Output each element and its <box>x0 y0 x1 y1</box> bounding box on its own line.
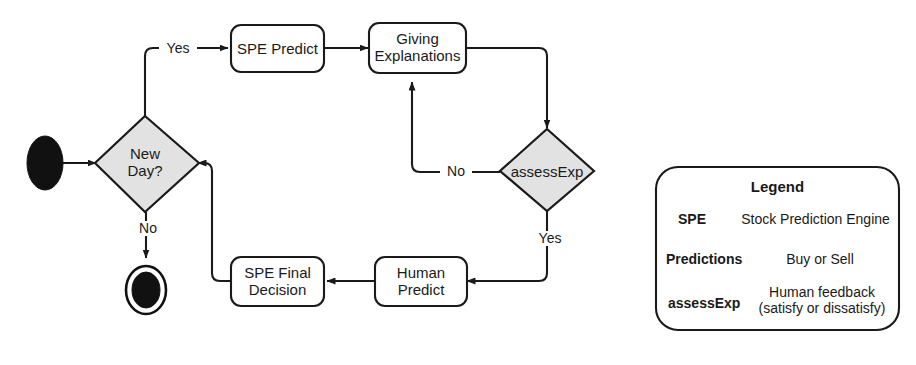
edge-label-assess-exp-no: No <box>440 164 472 179</box>
legend-definition-predictions: Buy or Sell <box>760 251 880 267</box>
decision-new-day <box>95 116 199 212</box>
legend-definition-assess-exp-line1: Human feedback <box>752 284 892 300</box>
edge-label-new-day-yes: Yes <box>159 41 197 56</box>
decision-assess-exp <box>500 129 594 211</box>
legend-definition-assess-exp-line2: (satisfy or dissatisfy) <box>752 300 892 316</box>
edge-label-assess-exp-yes: Yes <box>531 231 569 246</box>
edge-assess-exp-no-to-giving-explanations <box>412 82 500 172</box>
action-spe-final-decision <box>231 257 324 306</box>
end-node <box>126 266 166 314</box>
action-giving-explanations <box>369 23 466 73</box>
legend-title: Legend <box>656 178 899 195</box>
legend-term-predictions: Predictions <box>666 251 742 267</box>
edge-giving-explanations-to-assess-exp <box>466 48 547 128</box>
start-node <box>27 136 63 190</box>
legend-term-assess-exp: assessExp <box>668 295 740 311</box>
legend-definition-spe: Stock Prediction Engine <box>738 211 893 227</box>
edge-label-new-day-no: No <box>129 221 167 236</box>
edge-new-day-yes-to-spe-predict <box>145 48 228 116</box>
activity-diagram-canvas: New Day? SPE Predict Giving Explanations… <box>0 0 916 365</box>
action-human-predict <box>375 257 467 306</box>
action-spe-predict <box>231 25 324 72</box>
legend-definition-assess-exp: Human feedback (satisfy or dissatisfy) <box>752 284 892 316</box>
legend-term-spe: SPE <box>678 211 706 227</box>
legend: Legend SPE Stock Prediction Engine Predi… <box>656 167 899 330</box>
edge-spe-final-decision-to-new-day <box>198 163 231 281</box>
edge-assess-exp-yes-to-human-predict <box>467 211 547 281</box>
